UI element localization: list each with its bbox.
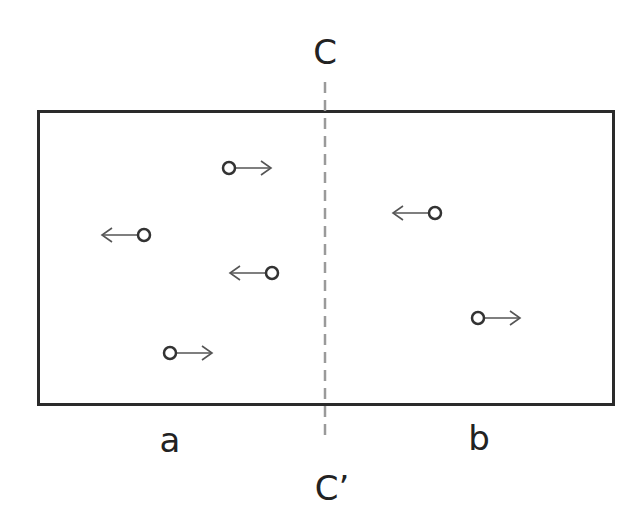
particle-circle-icon: [138, 229, 150, 241]
particle-a-right: [223, 161, 271, 175]
diagram-stage: C a b C’: [0, 0, 644, 525]
particles-group: [102, 161, 520, 360]
particle-circle-icon: [266, 267, 278, 279]
label-c-bottom: C’: [315, 471, 350, 505]
particle-circle-icon: [429, 207, 441, 219]
particle-circle-icon: [472, 312, 484, 324]
particle-a-left: [102, 228, 150, 242]
region-label-a: a: [160, 423, 181, 457]
diagram-svg: [0, 0, 644, 525]
region-label-b: b: [468, 421, 490, 455]
particle-b-left: [393, 206, 441, 220]
particle-circle-icon: [223, 162, 235, 174]
particle-b-right: [472, 311, 520, 325]
particle-circle-icon: [164, 347, 176, 359]
particle-a-right: [164, 346, 212, 360]
particle-a-left: [230, 266, 278, 280]
